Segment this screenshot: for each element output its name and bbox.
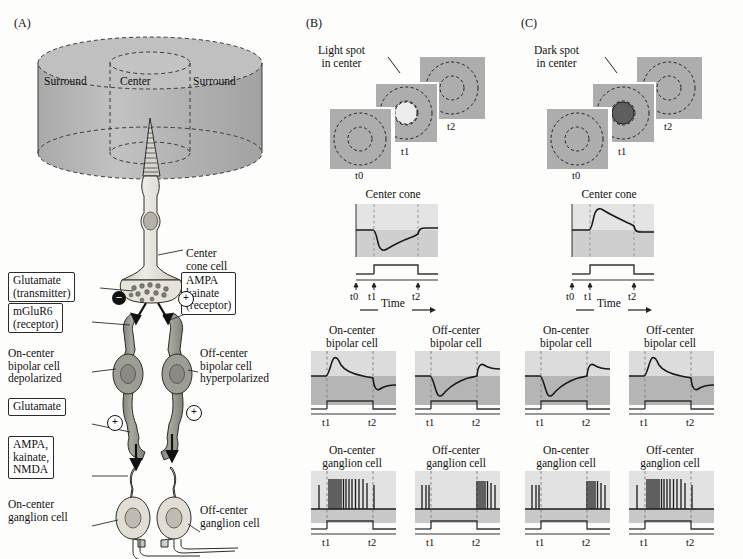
panel-b-trace2-tick-t2: t2 [368,537,376,548]
panel-c-trace0-title: On-center bipolar cell [520,324,612,349]
label-center-cone-cell: Center cone cell [186,247,227,272]
on-center-bipolar-cell [113,314,145,460]
stimulus-frame-t0 [328,107,395,171]
panel-b-frame-label-t2: t2 [447,121,455,132]
panel-b-off-ganglion-plot [415,471,500,541]
off-center-bipolar-cell [161,314,192,460]
panel-c-center-cone-plot [568,204,658,294]
panel-c-frame-label-t0: t0 [572,170,580,181]
plus-sign-badge-right: + [186,405,202,421]
label-mglur6-receptor: mGluR6 (receptor) [8,303,63,333]
panel-c-trace3-title: Off-center ganglion cell [624,444,716,469]
panel-b-trace2-tick-t1: t1 [322,537,330,548]
panel-b-cone-tick-t2: t2 [412,291,420,302]
panel-c-trace0-tick-t2: t2 [582,417,590,428]
panel-b-trace3-tick-t2: t2 [472,537,480,548]
panel-c-trace3-tick-t1: t1 [640,537,648,548]
panel-b-trace3-tick-t1: t1 [426,537,434,548]
panel-b-cone-tick-t1: t1 [368,291,376,302]
stimulus-frame-t0 [545,107,612,171]
panel-c-cone-tick-t1: t1 [584,291,592,302]
label-glutamate-transmitter: Glutamate (transmitter) [8,272,75,302]
panel-b-frame-label-t1: t1 [401,146,409,157]
panel-b-on-bipolar-plot [311,351,396,421]
panel-b-trace0-tick-t2: t2 [368,417,376,428]
panel-c-cone-plot-title: Center cone [554,188,664,201]
panel-b-frame-label-t0: t0 [355,170,363,181]
panel-b-off-bipolar-plot [415,351,500,421]
label-off-center-bipolar: Off-center bipolar cell hyperpolarized [200,347,269,385]
panel-c-off-bipolar-plot [629,351,714,421]
panel-c-stimulus-caption: Dark spot in center [534,44,579,69]
synaptic-arrows [132,303,172,323]
panel-c-letter: (C) [521,16,537,31]
panel-c-time-label: Time [597,297,621,309]
label-on-center-bipolar: On-center bipolar cell depolarized [8,347,62,385]
panel-b-on-ganglion-plot [311,471,396,541]
panel-b-cone-plot-title: Center cone [338,188,448,201]
panel-c-cone-tick-t2: t2 [628,291,636,302]
panel-c-trace1-tick-t2: t2 [686,417,694,428]
panel-c-frame-label-t2: t2 [664,121,672,132]
plus-sign-badge-synapse: + [178,291,194,307]
panel-c-trace3-tick-t2: t2 [686,537,694,548]
label-center: Center [120,75,151,88]
panel-b-letter: (B) [306,16,322,31]
panel-c-trace1-title: Off-center bipolar cell [624,324,716,349]
panel-c-trace2-tick-t1: t1 [536,537,544,548]
panel-b-center-cone-plot [352,204,442,294]
label-ampa-kainate-nmda: AMPA, kainate, NMDA [8,436,54,479]
panel-c-on-ganglion-plot [525,471,610,541]
panel-b-trace0-tick-t1: t1 [322,417,330,428]
label-on-center-ganglion: On-center ganglion cell [8,498,68,523]
panel-b-trace1-tick-t2: t2 [472,417,480,428]
label-glutamate-second: Glutamate [8,398,66,416]
panel-c-trace1-tick-t1: t1 [640,417,648,428]
panel-b-cone-tick-t0: t0 [350,291,358,302]
panel-b-trace1-title: Off-center bipolar cell [410,324,502,349]
dark-spot [612,102,634,124]
panel-c-frame-label-t1: t1 [618,146,626,157]
panel-b-trace1-tick-t1: t1 [426,417,434,428]
center-cone-cell [120,176,181,303]
panel-b-trace0-title: On-center bipolar cell [306,324,398,349]
light-spot [395,102,417,124]
panel-c-off-ganglion-plot [629,471,714,541]
label-surround-right: Surround [193,75,236,88]
panel-b-stimulus-caption: Light spot in center [318,44,365,69]
panel-c-trace2-title: On-center ganglion cell [520,444,612,469]
panel-b-trace3-title: Off-center ganglion cell [410,444,502,469]
label-surround-left: Surround [44,75,87,88]
label-off-center-ganglion: Off-center ganglion cell [200,504,260,529]
panel-b-trace2-title: On-center ganglion cell [306,444,398,469]
panel-b-time-label: Time [381,297,405,309]
panel-c-trace2-tick-t2: t2 [582,537,590,548]
panel-c-trace0-tick-t1: t1 [536,417,544,428]
panel-c-on-bipolar-plot [525,351,610,421]
panel-c-cone-tick-t0: t0 [566,291,574,302]
plus-sign-badge-left: + [107,415,123,431]
minus-sign-badge: − [112,291,126,305]
